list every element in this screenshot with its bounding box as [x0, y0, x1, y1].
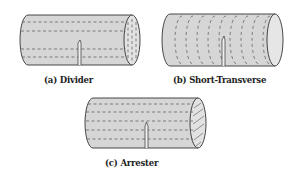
caption-divider: (a) Divider	[44, 75, 93, 85]
caption-short-transverse: (b) Short-Transverse	[173, 75, 266, 85]
cylinder-divider	[20, 15, 140, 65]
cylinder-short-transverse	[162, 14, 283, 66]
specimen-diagram	[0, 0, 298, 174]
cylinder-arrester	[85, 98, 206, 148]
caption-arrester: (c) Arrester	[105, 158, 158, 168]
